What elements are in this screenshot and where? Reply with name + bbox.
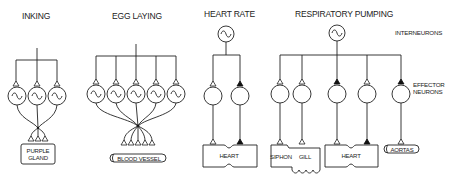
excitatory-synapse-icon xyxy=(28,136,34,141)
panel-egg-laying: BLOOD VESSEL xyxy=(87,44,185,162)
excitatory-synapse-icon xyxy=(42,136,48,141)
excitatory-synapse-icon xyxy=(128,140,134,145)
panel-heart-rate: HEART xyxy=(203,26,257,167)
organ-label-gland: GLAND xyxy=(28,155,49,161)
organ-label-aortas: AORTAS xyxy=(391,147,414,153)
excitatory-synapse-icon xyxy=(210,81,216,86)
excitatory-synapse-icon xyxy=(142,140,148,145)
excitatory-synapse-icon xyxy=(210,139,216,144)
excitatory-synapse-icon xyxy=(121,140,127,145)
excitatory-synapse-icon xyxy=(334,139,340,144)
excitatory-synapse-icon xyxy=(133,79,139,84)
excitatory-synapse-icon xyxy=(277,139,283,144)
excitatory-synapse-icon xyxy=(364,79,370,84)
inhibitory-synapse-icon xyxy=(398,79,404,84)
organ-label-siphon: SIPHON xyxy=(270,154,292,160)
panel-title-respiratory-pumping: RESPIRATORY PUMPING xyxy=(295,9,393,19)
excitatory-synapse-icon xyxy=(135,140,141,145)
effector-neuron-icon xyxy=(231,87,249,105)
inhibitory-synapse-icon xyxy=(364,139,370,144)
effector-neuron-icon xyxy=(293,85,311,103)
effector-neuron-icon xyxy=(358,85,376,103)
organ-label-purple: PURPLE xyxy=(27,148,50,154)
excitatory-synapse-icon xyxy=(13,81,19,86)
organ-label-heart: HEART xyxy=(341,153,361,159)
excitatory-synapse-icon xyxy=(299,139,305,144)
organ-label-blood-vessel: BLOOD VESSEL xyxy=(117,156,161,162)
excitatory-synapse-icon xyxy=(34,81,40,86)
effector-neuron-icon xyxy=(328,85,346,103)
effector-neuron-icon xyxy=(271,85,289,103)
panel-inking: PURPLE GLAND xyxy=(8,48,66,164)
side-label-effector: EFFECTOR xyxy=(413,81,445,88)
inhibitory-synapse-icon xyxy=(237,81,243,86)
excitatory-synapse-icon xyxy=(299,79,305,84)
effector-neuron-icon xyxy=(204,87,222,105)
panel-respiratory-pumping: SIPHON GILL HEART AORTAS xyxy=(270,25,419,173)
purple-gland-organ xyxy=(21,144,55,164)
organ-label-heart: HEART xyxy=(219,153,239,159)
inhibitory-synapse-icon xyxy=(237,139,243,144)
excitatory-synapse-icon xyxy=(153,79,159,84)
panel-title-egg-laying: EGG LAYING xyxy=(112,11,162,21)
panel-title-inking: INKING xyxy=(22,11,50,21)
excitatory-synapse-icon xyxy=(173,79,179,84)
panel-title-heart-rate: HEART RATE xyxy=(204,9,255,19)
side-label-interneurons: INTERNEURONS xyxy=(395,29,442,36)
effector-neuron-icon xyxy=(392,85,410,103)
excitatory-synapse-icon xyxy=(149,140,155,145)
side-label-neurons: NEURONS xyxy=(413,88,443,95)
inhibitory-synapse-icon xyxy=(334,79,340,84)
organ-label-gill: GILL xyxy=(299,154,312,160)
excitatory-synapse-icon xyxy=(93,79,99,84)
excitatory-synapse-icon xyxy=(35,136,41,141)
neural-circuit-diagram: INKING EGG LAYING HEART RATE RESPIRATORY… xyxy=(0,0,464,180)
excitatory-synapse-icon xyxy=(113,79,119,84)
excitatory-synapse-icon xyxy=(398,139,404,144)
excitatory-synapse-icon xyxy=(54,81,60,86)
excitatory-synapse-icon xyxy=(277,79,283,84)
